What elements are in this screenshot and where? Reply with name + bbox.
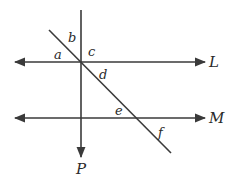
angle-d-label: d (99, 67, 107, 82)
angle-b-label: b (68, 30, 76, 45)
line-L-label: L (208, 53, 219, 71)
transversal-line (49, 30, 171, 153)
line-M-label: M (208, 109, 225, 127)
angle-a-label: a (54, 47, 62, 62)
angle-e-label: e (115, 103, 123, 118)
angle-f-label: f (157, 125, 165, 140)
parallel-lines-diagram: L M P a b c d e f (0, 0, 231, 186)
angle-c-label: c (88, 44, 96, 59)
line-P-label: P (75, 160, 87, 178)
